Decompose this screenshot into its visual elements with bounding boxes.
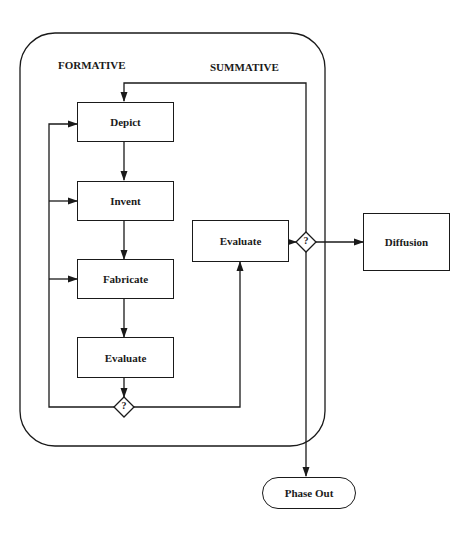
invent-step: Invent (77, 181, 174, 221)
summative-evaluate-step: Evaluate (192, 220, 289, 262)
fabricate-step: Fabricate (77, 259, 174, 299)
formative-decision-label: ? (116, 400, 132, 411)
summative-section-label: SUMMATIVE (210, 61, 279, 73)
formative-section-label: FORMATIVE (58, 59, 126, 71)
diffusion-outcome: Diffusion (363, 213, 450, 271)
phase-out-outcome: Phase Out (262, 477, 356, 509)
summative-decision-label: ? (298, 235, 314, 246)
formative-evaluate-step: Evaluate (77, 337, 174, 378)
depict-step: Depict (77, 102, 174, 142)
